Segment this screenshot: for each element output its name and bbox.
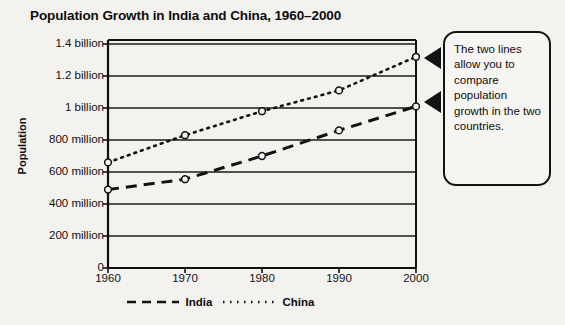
data-point-india [182,176,189,183]
data-point-china [336,87,343,94]
callout-box: The two lines allow you to compare popul… [443,31,551,186]
legend-label-china: China [282,296,314,308]
data-point-india [105,186,112,193]
data-point-china [259,108,266,115]
data-point-china [105,159,112,166]
legend-swatch-china [222,297,276,307]
callout-arrow-top-icon [424,47,441,69]
data-point-china [182,132,189,139]
data-point-india [259,153,266,160]
callout-arrow-bottom-icon [424,91,441,113]
chart-legend: India China [0,296,440,308]
legend-entry-china: China [222,296,314,308]
data-point-china [413,53,420,60]
legend-entry-india: India [126,296,213,308]
data-point-india [413,103,420,110]
callout-text: The two lines allow you to compare popul… [454,42,542,134]
legend-swatch-india [126,297,180,307]
chart-figure: Population Growth in India and China, 19… [0,0,565,325]
legend-label-india: India [186,296,213,308]
series-line-india [108,106,416,189]
data-point-india [336,127,343,134]
